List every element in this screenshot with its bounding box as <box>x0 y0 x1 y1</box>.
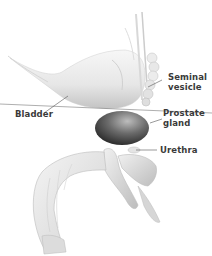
bulb-shape <box>104 147 160 222</box>
prostate-line1: Prostate <box>163 108 205 118</box>
prostate-gland-shape <box>95 111 149 145</box>
anatomy-drawing <box>0 0 212 256</box>
bladder-text: Bladder <box>15 109 53 119</box>
anatomy-illustration: Seminal vesicle Bladder Prostate gland U… <box>0 0 212 256</box>
prostate-line2: gland <box>163 118 205 128</box>
label-seminal-vesicle: Seminal vesicle <box>168 72 207 92</box>
label-prostate-gland: Prostate gland <box>163 108 205 128</box>
label-bladder: Bladder <box>15 109 53 119</box>
label-urethra: Urethra <box>160 145 198 155</box>
penis-shape <box>33 152 106 254</box>
seminal-vesicle-line1: Seminal <box>168 72 207 82</box>
seminal-vesicle-line2: vesicle <box>168 82 207 92</box>
bladder-shape <box>8 50 145 108</box>
urethra-text: Urethra <box>160 145 198 155</box>
